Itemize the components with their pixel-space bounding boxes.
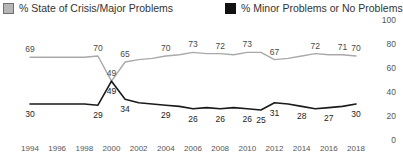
data-point-label: 30 (351, 110, 360, 119)
x-axis-tick: 2018 (347, 144, 365, 153)
x-axis-tick: 2010 (238, 144, 256, 153)
legend-item-state-of-crisis[interactable]: % State of Crisis/Major Problems (3, 3, 173, 14)
x-axis-tick: 2016 (320, 144, 338, 153)
data-point-label: 34 (120, 105, 129, 114)
data-point-label: 72 (311, 42, 320, 51)
data-point-label: 26 (188, 115, 197, 124)
data-point-label: 30 (25, 110, 34, 119)
x-axis-tick: 2004 (157, 144, 175, 153)
data-point-label: 26 (215, 115, 224, 124)
data-point-label: 29 (161, 111, 170, 120)
plot-svg (0, 20, 368, 140)
data-point-label: 70 (161, 44, 170, 53)
x-axis-tick: 1998 (75, 144, 93, 153)
gray-swatch-icon (3, 3, 14, 14)
data-point-label: 26 (243, 115, 252, 124)
data-point-label: 49 (107, 87, 116, 96)
x-axis-tick: 2000 (103, 144, 121, 153)
x-axis-tick: 2002 (130, 144, 148, 153)
data-point-label: 73 (243, 40, 252, 49)
data-point-label: 70 (93, 44, 102, 53)
y-axis: 020406080100 (372, 20, 398, 140)
legend-item-label: % Minor Problems or No Problems (241, 3, 403, 14)
data-point-label: 28 (297, 112, 306, 121)
data-point-label: 29 (93, 111, 102, 120)
data-point-label: 73 (188, 40, 197, 49)
data-point-label: 71 (338, 43, 347, 52)
data-point-label: 49 (107, 69, 116, 78)
x-axis: 1994199619982000200220042006200820102012… (0, 141, 398, 162)
series-line-minor-problems (30, 81, 356, 110)
x-axis-tick: 2014 (293, 144, 311, 153)
y-axis-tick: 80 (372, 40, 396, 48)
data-point-label: 25 (256, 116, 265, 125)
legend-item-minor-problems[interactable]: % Minor Problems or No Problems (225, 3, 403, 14)
x-axis-tick: 2008 (211, 144, 229, 153)
y-axis-tick: 40 (372, 88, 396, 96)
data-point-label: 72 (215, 42, 224, 51)
y-axis-tick: 60 (372, 64, 396, 72)
x-axis-tick: 1996 (48, 144, 66, 153)
chart-legend: % State of Crisis/Major Problems % Minor… (0, 0, 398, 22)
series-line-state-of-crisis (30, 52, 356, 81)
y-axis-tick: 20 (372, 112, 396, 120)
x-axis-tick: 1994 (21, 144, 39, 153)
data-point-label: 31 (270, 109, 279, 118)
black-swatch-icon (225, 3, 236, 14)
data-point-label: 65 (120, 50, 129, 59)
x-axis-tick: 2012 (266, 144, 284, 153)
data-point-label: 70 (351, 44, 360, 53)
legend-item-label: % State of Crisis/Major Problems (19, 3, 173, 14)
data-point-label: 69 (25, 45, 34, 54)
data-point-label: 27 (324, 114, 333, 123)
plot-area (0, 20, 368, 140)
data-point-label: 67 (270, 48, 279, 57)
y-axis-tick: 100 (372, 16, 396, 24)
x-axis-tick: 2006 (184, 144, 202, 153)
